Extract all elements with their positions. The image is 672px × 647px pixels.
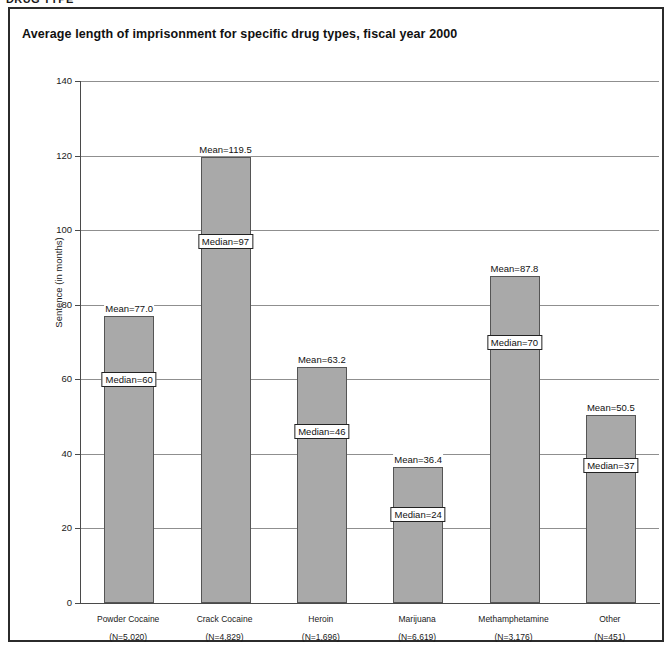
y-axis-tick (75, 528, 81, 529)
y-axis-tick-label: 60 (32, 373, 72, 384)
median-label: Median=70 (487, 335, 542, 350)
mean-label: Mean=77.0 (104, 303, 154, 314)
median-label: Median=24 (391, 507, 446, 522)
x-axis-category-count: (N=6,619) (398, 632, 436, 642)
chart-title: Average length of imprisonment for speci… (22, 27, 457, 41)
median-label: Median=60 (102, 372, 157, 387)
y-axis-tick (75, 305, 81, 306)
gridline (81, 81, 659, 82)
mean-label: Mean=50.5 (586, 402, 636, 413)
gridline (81, 379, 659, 380)
bar (490, 276, 540, 603)
y-axis-tick-label: 120 (32, 150, 72, 161)
x-axis-category-count: (N=451) (594, 632, 625, 642)
mean-label: Mean=36.4 (393, 454, 443, 465)
plot-area: Mean=77.0Median=60Mean=119.5Median=97Mea… (80, 81, 658, 603)
y-axis-tick-labels: 020406080100120140 (32, 81, 72, 603)
cropped-header-strip: DRUG TYPE (0, 0, 672, 7)
cropped-header-text: DRUG TYPE (6, 0, 74, 5)
median-label: Median=37 (583, 458, 638, 473)
y-axis-tick-label: 40 (32, 448, 72, 459)
y-axis-tick-label: 0 (32, 597, 72, 608)
x-axis-category-label: Powder Cocaine (97, 614, 159, 624)
x-axis-category-label: Heroin (308, 614, 333, 624)
bar (297, 367, 347, 603)
x-axis-category-label: Methamphetamine (478, 614, 548, 624)
x-axis-category-label: Crack Cocaine (197, 614, 253, 624)
figure-frame: Average length of imprisonment for speci… (8, 7, 664, 642)
x-axis-category-label: Marijuana (398, 614, 435, 624)
y-axis-tick-label: 20 (32, 522, 72, 533)
y-axis-tick (75, 379, 81, 380)
x-axis-line (80, 603, 660, 604)
mean-label: Mean=87.8 (490, 263, 540, 274)
bar (586, 415, 636, 603)
x-axis-category-count: (N=1,696) (302, 632, 340, 642)
x-axis-category-count: (N=3,176) (494, 632, 532, 642)
y-axis-tick (75, 454, 81, 455)
y-axis-tick (75, 156, 81, 157)
y-axis-tick-label: 140 (32, 75, 72, 86)
y-axis-tick (75, 81, 81, 82)
y-axis-tick (75, 230, 81, 231)
bar (393, 467, 443, 603)
gridline (81, 454, 659, 455)
gridline (81, 528, 659, 529)
x-axis-category-label: Other (599, 614, 620, 624)
median-label: Median=46 (294, 424, 349, 439)
gridline (81, 156, 659, 157)
x-axis-category-count: (N=4,829) (205, 632, 243, 642)
median-label: Median=97 (198, 234, 253, 249)
mean-label: Mean=119.5 (198, 144, 252, 155)
gridline (81, 230, 659, 231)
mean-label: Mean=63.2 (297, 354, 347, 365)
gridline (81, 305, 659, 306)
bar (201, 157, 251, 603)
y-axis-tick-label: 80 (32, 299, 72, 310)
x-axis-category-count: (N=5,020) (109, 632, 147, 642)
bar (104, 316, 154, 603)
y-axis-tick-label: 100 (32, 224, 72, 235)
